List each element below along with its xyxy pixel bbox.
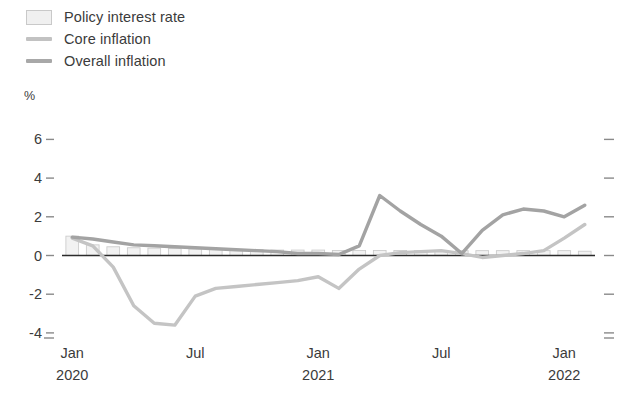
x-tick-label-year: 2020	[56, 367, 88, 383]
axis-ticks	[44, 139, 614, 338]
bar	[168, 249, 181, 256]
x-tick-label-year: 2021	[302, 367, 334, 383]
line-series-overall-inflation	[72, 196, 585, 255]
bar	[107, 247, 120, 256]
x-tick-label-month: Jul	[186, 345, 205, 361]
y-axis-labels: 6420-2-4	[29, 131, 42, 341]
y-tick-label: -2	[29, 286, 42, 302]
bar	[127, 248, 140, 256]
x-tick-label-month: Jan	[307, 345, 330, 361]
y-tick-label: 6	[34, 131, 42, 147]
x-tick-label-month: Jan	[61, 345, 84, 361]
x-axis-labels: Jan2020JulJan2021JulJan2022	[56, 345, 580, 383]
line-series-core-inflation	[72, 225, 585, 326]
y-tick-label: -4	[29, 325, 42, 341]
chart-container: Policy interest rate Core inflation Over…	[0, 0, 634, 409]
plot-area: 6420-2-4 Jan2020JulJan2021JulJan2022	[0, 0, 634, 409]
y-tick-label: 0	[34, 248, 42, 264]
x-tick-label-month: Jan	[553, 345, 576, 361]
bar	[189, 249, 202, 256]
x-tick-label-year: 2022	[548, 367, 580, 383]
y-tick-label: 4	[34, 170, 42, 186]
bar	[148, 248, 161, 255]
y-tick-label: 2	[34, 209, 42, 225]
x-tick-label-month: Jul	[432, 345, 451, 361]
